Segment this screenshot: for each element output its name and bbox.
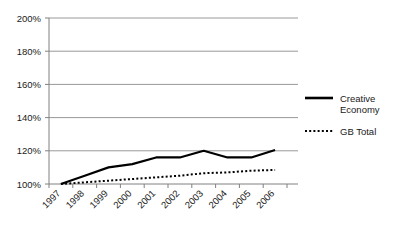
y-axis-tick-label: 140% bbox=[17, 112, 42, 123]
legend-label-line2: Economy bbox=[340, 104, 380, 115]
line-chart: 100%120%140%160%180%200% 199719981999200… bbox=[0, 0, 395, 239]
legend-label: GB Total bbox=[340, 126, 376, 137]
chart-container: 100%120%140%160%180%200% 199719981999200… bbox=[0, 0, 395, 239]
chart-background bbox=[0, 0, 395, 239]
y-axis-tick-label: 200% bbox=[17, 13, 42, 24]
legend-label: Creative bbox=[340, 93, 375, 104]
y-axis-tick-label: 160% bbox=[17, 79, 42, 90]
y-axis-tick-label: 120% bbox=[17, 145, 42, 156]
y-axis-tick-label: 180% bbox=[17, 46, 42, 57]
y-axis-tick-label: 100% bbox=[17, 179, 42, 190]
